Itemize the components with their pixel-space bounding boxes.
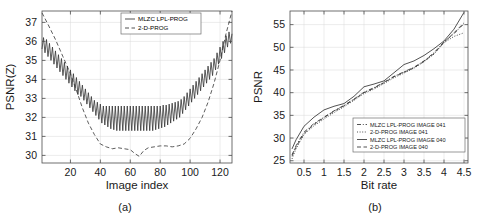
chart-b-caption: (b): [368, 201, 381, 213]
figure-container: 204060801001203031323334353637 Image ind…: [0, 0, 501, 218]
chart-a-svg: 204060801001203031323334353637 Image ind…: [0, 0, 250, 218]
chart-b-ylabel: PSNR: [252, 71, 264, 103]
ytick-label: 30: [273, 132, 285, 144]
xtick-label: 2.5: [377, 166, 392, 178]
ytick-label: 37: [25, 16, 37, 28]
legend-label-1: MLZC LPL-PROG IMAGE 041: [370, 122, 446, 128]
xtick-label: 3: [401, 166, 407, 178]
ytick-label: 35: [273, 109, 285, 121]
xtick-label: 80: [154, 166, 166, 178]
ytick-label: 35: [25, 54, 37, 66]
legend-label-2: 2-D-PROG IMAGE 041: [370, 129, 428, 135]
legend-label-3: MLZC LPL-PROG IMAGE 040: [370, 137, 446, 143]
xtick-label: 2: [361, 166, 367, 178]
chart-b-ticks: 0.511.522.533.544.525303540455055: [273, 11, 471, 178]
chart-a-ticks: 204060801001203031323334353637: [25, 11, 232, 178]
chart-a-caption: (a): [118, 201, 131, 213]
ytick-label: 45: [273, 64, 285, 76]
ytick-label: 40: [273, 86, 285, 98]
legend-label-2: 2-D-PROG: [138, 24, 168, 31]
ytick-label: 33: [25, 92, 37, 104]
chart-a-legend: MLZC LPL-PROG2-D-PROG: [121, 13, 201, 34]
ytick-label: 55: [273, 18, 285, 30]
chart-b-xlabel: Bit rate: [361, 179, 397, 191]
panel-b: 0.511.522.533.544.525303540455055 Bit ra…: [250, 0, 500, 218]
ytick-label: 50: [273, 41, 285, 53]
xtick-label: 0.5: [297, 166, 312, 178]
chart-a-ylabel: PSNR(Z): [4, 64, 16, 111]
ytick-label: 31: [25, 130, 37, 142]
chart-b-legend: MLZC LPL-PROG IMAGE 0412-D-PROG IMAGE 04…: [353, 118, 465, 152]
xtick-label: 1.5: [337, 166, 352, 178]
xtick-label: 3.5: [417, 166, 432, 178]
legend-label-1: MLZC LPL-PROG: [138, 15, 188, 22]
xtick-label: 4.5: [457, 166, 472, 178]
legend-label-4: 2-D-PROG IMAGE 040: [370, 144, 428, 150]
xtick-label: 40: [95, 166, 107, 178]
xtick-label: 4: [441, 166, 447, 178]
ytick-label: 32: [25, 111, 37, 123]
ytick-label: 30: [25, 149, 37, 161]
chart-b-svg: 0.511.522.533.544.525303540455055 Bit ra…: [250, 0, 500, 218]
xtick-label: 20: [65, 166, 77, 178]
chart-a-xlabel: Image index: [106, 179, 169, 191]
ytick-label: 25: [273, 154, 285, 166]
xtick-label: 60: [124, 166, 136, 178]
xtick-label: 1: [321, 166, 327, 178]
xtick-label: 120: [211, 166, 229, 178]
ytick-label: 36: [25, 35, 37, 47]
xtick-label: 100: [181, 166, 199, 178]
panel-a: 204060801001203031323334353637 Image ind…: [0, 0, 250, 218]
ytick-label: 34: [25, 73, 37, 85]
